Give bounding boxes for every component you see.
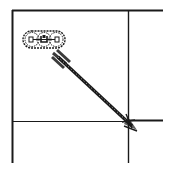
chain-link-icon <box>23 31 65 48</box>
diagram-canvas <box>0 0 172 170</box>
diagram-svg <box>0 0 172 170</box>
diagonal-arrow-icon <box>52 50 137 131</box>
